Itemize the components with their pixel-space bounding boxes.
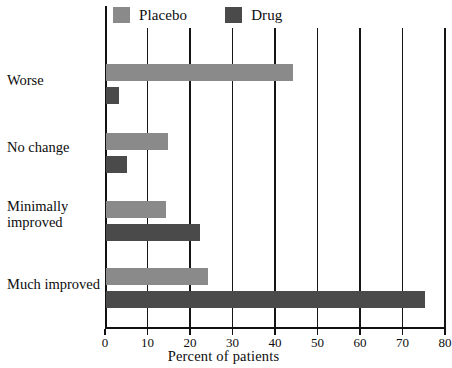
- bar-placebo-minimally-improved: [106, 201, 166, 218]
- bar-drug-much-improved: [106, 291, 425, 308]
- category-label-much-improved: Much improved: [7, 276, 100, 292]
- category-label-no-change-text: No change: [7, 139, 69, 155]
- category-label-minimally-improved: Minimally improved: [7, 198, 68, 230]
- bar-placebo-worse: [106, 64, 293, 81]
- bar-drug-worse: [106, 87, 119, 104]
- category-label-no-change: No change: [7, 139, 69, 155]
- x-axis-title: Percent of patients: [0, 348, 447, 364]
- category-label-worse: Worse: [7, 72, 44, 88]
- gridline-60: [359, 28, 360, 327]
- gridline-70: [402, 28, 403, 327]
- bar-drug-no-change: [106, 156, 127, 173]
- category-axis-labels: Worse No change Minimally improved Much …: [0, 0, 100, 368]
- category-label-much-improved-text: Much improved: [7, 276, 100, 292]
- category-label-minimally-improved-line2: improved: [7, 214, 68, 230]
- category-label-worse-text: Worse: [7, 72, 44, 88]
- category-label-minimally-improved-line1: Minimally: [7, 198, 68, 214]
- bar-drug-minimally-improved: [106, 224, 200, 241]
- plot-area: 01020304050607080: [105, 6, 445, 329]
- gridline-80: [444, 28, 445, 327]
- bar-placebo-no-change: [106, 133, 168, 150]
- gridline-50: [317, 28, 318, 327]
- bar-placebo-much-improved: [106, 268, 208, 285]
